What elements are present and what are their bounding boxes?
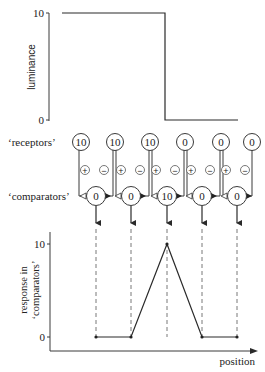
excitatory-arrow-icon (221, 193, 227, 199)
svg-text:+: + (82, 166, 87, 176)
receptor-nodes: 10 10 10 0 0 0 (73, 134, 261, 151)
plus-sign-icon: + (187, 166, 196, 176)
lateral-inhibition-diagram: 10 0 luminance ‘receptors’ ‘comparators’ (0, 0, 265, 372)
receptor-node: 10 (142, 134, 159, 151)
x-axis-arrow-icon (250, 348, 258, 354)
svg-text:‘comparators’: ‘comparators’ (30, 261, 41, 320)
receptors-label: ‘receptors’ (8, 136, 56, 148)
response-tick-label-0: 0 (40, 331, 46, 343)
svg-text:−: − (242, 166, 247, 176)
svg-text:+: + (153, 166, 158, 176)
position-axis-label: position (220, 355, 256, 367)
comparator-node: 0 (122, 187, 141, 206)
receptor-node: 0 (244, 134, 261, 151)
data-point (94, 335, 97, 338)
receptor-value: 10 (76, 136, 88, 148)
svg-text:−: − (172, 166, 177, 176)
luminance-step-line (62, 13, 238, 120)
receptor-node: 0 (177, 134, 194, 151)
svg-text:+: + (188, 166, 193, 176)
minus-sign-icon: − (136, 166, 145, 176)
plus-sign-icon: + (81, 166, 90, 176)
plus-sign-icon: + (152, 166, 161, 176)
receptor-node: 10 (107, 134, 124, 151)
receptor-node: 10 (73, 134, 90, 151)
data-point (129, 335, 132, 338)
minus-sign-icon: − (171, 166, 180, 176)
receptor-node: 0 (213, 134, 230, 151)
comparator-value: 0 (128, 190, 134, 202)
data-point (165, 242, 168, 245)
excitatory-arrow-icon (80, 193, 86, 199)
comparator-node: 0 (193, 187, 212, 206)
luminance-tick-label-10: 10 (33, 7, 45, 19)
comparator-node: 0 (228, 187, 247, 206)
plus-sign-icon: + (117, 166, 126, 176)
comparator-value: 10 (162, 190, 174, 202)
plus-sign-icon: + (222, 166, 231, 176)
receptor-value: 0 (249, 136, 255, 148)
minus-sign-icon: − (241, 166, 250, 176)
svg-text:−: − (207, 166, 212, 176)
comparators-label: ‘comparators’ (8, 190, 70, 202)
receptor-value: 0 (218, 136, 224, 148)
synapse-signs: + − + − + − + − + − (81, 166, 250, 176)
svg-text:+: + (223, 166, 228, 176)
comparator-node: 0 (87, 187, 106, 206)
data-point (235, 335, 238, 338)
receptor-value: 10 (145, 136, 157, 148)
svg-text:−: − (101, 166, 106, 176)
receptor-value: 0 (182, 136, 188, 148)
svg-text:+: + (118, 166, 123, 176)
luminance-chart: 10 0 luminance (26, 7, 238, 126)
luminance-axis-label: luminance (26, 44, 37, 90)
comparator-node: 10 (158, 187, 177, 206)
response-line (96, 244, 237, 337)
comparator-value: 0 (234, 190, 240, 202)
data-point (200, 335, 203, 338)
minus-sign-icon: − (206, 166, 215, 176)
comparator-value: 0 (199, 190, 205, 202)
minus-sign-icon: − (100, 166, 109, 176)
response-chart: 10 0 response in ‘comparators’ position (18, 232, 258, 367)
luminance-tick-label-0: 0 (39, 114, 45, 126)
svg-text:response in: response in (18, 265, 29, 313)
comparator-value: 0 (93, 190, 99, 202)
response-axis-label: response in ‘comparators’ (18, 261, 41, 320)
svg-text:−: − (137, 166, 142, 176)
receptor-value: 10 (110, 136, 122, 148)
comparator-output-arrows (96, 206, 237, 223)
response-tick-label-10: 10 (34, 238, 46, 250)
